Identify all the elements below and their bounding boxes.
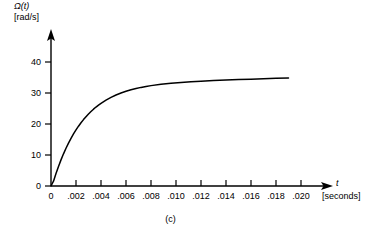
y-tick-label-20: 20 — [8, 119, 41, 129]
y-axis-label-units: [rad/s] — [14, 12, 39, 23]
figure-container: Ω(t) [rad/s] 0 10 20 30 40 0 .002 .004 .… — [0, 0, 371, 233]
y-axis-label: Ω(t) [rad/s] — [14, 1, 39, 23]
x-tick-label-018: .018 — [262, 191, 290, 201]
y-tick-label-10: 10 — [8, 150, 41, 160]
y-tick-label-30: 30 — [8, 88, 41, 98]
x-tick-label-012: .012 — [187, 191, 215, 201]
x-tick-label-004: .004 — [87, 191, 115, 201]
x-tick-label-006: .006 — [112, 191, 140, 201]
y-tick-label-0: 0 — [8, 181, 41, 191]
x-tick-label-020: .020 — [287, 191, 315, 201]
figure-caption: (c) — [0, 214, 341, 224]
x-tick-label-010: .010 — [162, 191, 190, 201]
x-tick-label-008: .008 — [137, 191, 165, 201]
y-axis-label-quantity: Ω(t) — [14, 1, 39, 12]
x-tick-label-002: .002 — [62, 191, 90, 201]
x-tick-label-origin: 0 — [37, 191, 65, 201]
x-tick-label-014: .014 — [212, 191, 240, 201]
y-tick-label-40: 40 — [8, 57, 41, 67]
x-axis-label-variable: t — [336, 178, 339, 189]
x-axis-label-units: [seconds] — [322, 191, 361, 202]
x-tick-label-016: .016 — [237, 191, 265, 201]
